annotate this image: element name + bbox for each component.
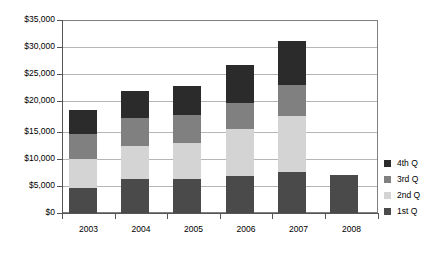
- bar-segment-2nd-q: [278, 116, 306, 172]
- bars-layer: [63, 21, 378, 213]
- bar-segment-2nd-q: [226, 129, 254, 176]
- legend-item-4th-q[interactable]: 4th Q: [384, 155, 446, 171]
- legend-item-2nd-q[interactable]: 2nd Q: [384, 187, 446, 203]
- stacked-bar-chart: $35,000 $30,000 $25,000 $20,000 $15,000 …: [0, 0, 448, 258]
- x-tick-label-2006: 2006: [220, 224, 272, 234]
- x-tick-label-2007: 2007: [272, 224, 325, 234]
- y-tick-mark: [57, 20, 62, 21]
- x-tick-mark: [378, 214, 379, 219]
- bar-segment-3rd-q: [121, 118, 149, 146]
- x-tick-mark: [272, 214, 273, 219]
- y-tick-label: $20,000: [3, 96, 55, 105]
- bar-segment-4th-q: [226, 65, 254, 103]
- y-tick-label: $10,000: [3, 154, 55, 163]
- legend-swatch-icon: [384, 176, 391, 183]
- legend-item-3rd-q[interactable]: 3rd Q: [384, 171, 446, 187]
- bar-segment-4th-q: [173, 86, 201, 115]
- legend-swatch-icon: [384, 208, 391, 215]
- y-tick-mark: [57, 159, 62, 160]
- bar-segment-3rd-q: [278, 85, 306, 116]
- legend-label: 4th Q: [397, 158, 418, 168]
- y-tick-mark: [57, 101, 62, 102]
- legend-label: 3rd Q: [397, 174, 418, 184]
- y-tick-label: $0: [3, 208, 55, 217]
- legend-item-1st-q[interactable]: 1st Q: [384, 203, 446, 219]
- y-tick-mark: [57, 47, 62, 48]
- y-tick-mark: [57, 74, 62, 75]
- bar-segment-1st-q: [226, 176, 254, 213]
- legend-label: 1st Q: [397, 206, 417, 216]
- y-axis-line: [62, 20, 63, 214]
- y-tick-label: $15,000: [3, 127, 55, 136]
- x-tick-mark: [62, 214, 63, 219]
- x-tick-mark: [325, 214, 326, 219]
- bar-segment-2nd-q: [173, 143, 201, 180]
- y-tick-mark: [57, 132, 62, 133]
- x-tick-label-2003: 2003: [62, 224, 115, 234]
- bar-stack-2006[interactable]: [226, 65, 254, 213]
- bar-segment-3rd-q: [173, 115, 201, 143]
- bar-segment-1st-q: [330, 175, 358, 214]
- x-tick-label-2008: 2008: [325, 224, 378, 234]
- bar-stack-2005[interactable]: [173, 86, 201, 213]
- bar-stack-2008[interactable]: [330, 175, 358, 214]
- bar-segment-1st-q: [278, 172, 306, 213]
- bar-segment-3rd-q: [69, 134, 97, 159]
- chart-legend: 4th Q 3rd Q 2nd Q 1st Q: [384, 155, 446, 219]
- x-tick-label-2004: 2004: [115, 224, 167, 234]
- x-tick-mark: [167, 214, 168, 219]
- bar-segment-4th-q: [121, 91, 149, 119]
- bar-stack-2004[interactable]: [121, 91, 149, 213]
- bar-stack-2007[interactable]: [278, 41, 306, 213]
- bar-segment-1st-q: [173, 179, 201, 213]
- y-tick-label: $5,000: [3, 181, 55, 190]
- x-tick-label-2005: 2005: [167, 224, 220, 234]
- y-tick-mark: [57, 186, 62, 187]
- x-tick-mark: [220, 214, 221, 219]
- legend-swatch-icon: [384, 192, 391, 199]
- bar-segment-4th-q: [69, 110, 97, 134]
- y-tick-label: $30,000: [3, 42, 55, 51]
- y-axis-tick-labels: $35,000 $30,000 $25,000 $20,000 $15,000 …: [0, 0, 55, 258]
- bar-segment-2nd-q: [69, 159, 97, 188]
- y-tick-label: $25,000: [3, 69, 55, 78]
- legend-label: 2nd Q: [397, 190, 420, 200]
- bar-segment-1st-q: [69, 188, 97, 213]
- y-tick-label: $35,000: [3, 15, 55, 24]
- bar-segment-3rd-q: [226, 103, 254, 129]
- bar-segment-4th-q: [278, 41, 306, 85]
- x-tick-mark: [115, 214, 116, 219]
- bar-stack-2003[interactable]: [69, 110, 97, 213]
- bar-segment-1st-q: [121, 179, 149, 213]
- bar-segment-2nd-q: [121, 146, 149, 180]
- legend-swatch-icon: [384, 160, 391, 167]
